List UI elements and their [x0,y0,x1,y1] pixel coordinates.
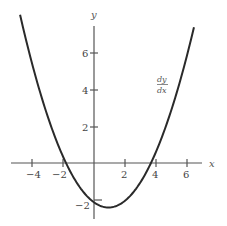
svg-text:2: 2 [121,169,127,180]
svg-text:−4: −4 [26,169,41,180]
x-tick-labels: −4 −2 2 4 6 [26,169,189,180]
x-axis-label: x [209,158,215,169]
svg-text:−2: −2 [52,169,67,180]
y-tick-labels: −2 2 4 6 [75,48,90,211]
parabola-curve [20,15,194,208]
y-ticks [90,53,102,200]
svg-text:2: 2 [82,122,88,133]
svg-text:4: 4 [82,85,88,96]
svg-text:6: 6 [183,169,189,180]
svg-text:−2: −2 [75,200,90,211]
y-axis-label: y [90,9,97,20]
svg-text:dx: dx [157,86,167,95]
svg-text:dy: dy [157,75,167,84]
chart: x y −4 −2 2 4 6 −2 2 4 6 dy dx [0,0,227,226]
svg-text:4: 4 [152,169,158,180]
svg-text:6: 6 [82,48,88,59]
curve-label: dy dx [157,75,168,95]
